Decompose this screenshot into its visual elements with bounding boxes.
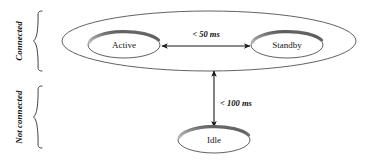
state-standby-label: Standby (272, 40, 302, 50)
diagram-canvas: Connected Not connected < 100 ms < 50 ms… (0, 0, 370, 162)
state-active-label: Active (112, 40, 136, 50)
transition-active-standby-label: < 50 ms (192, 29, 220, 39)
state-diagram: Connected Not connected < 100 ms < 50 ms… (0, 0, 370, 162)
group-annotation-not-connected: Not connected (14, 86, 42, 148)
transition-connected-idle-label: < 100 ms (220, 98, 252, 108)
state-node-standby[interactable]: Standby (251, 32, 323, 58)
state-node-active[interactable]: Active (88, 32, 160, 58)
group-label-not-connected: Not connected (14, 90, 24, 145)
transition-active-standby: < 50 ms (162, 29, 250, 46)
transition-connected-idle: < 100 ms (214, 71, 253, 127)
state-node-idle[interactable]: Idle (178, 127, 250, 153)
brace-connected (34, 11, 43, 71)
group-label-connected: Connected (14, 21, 24, 61)
group-annotation-connected: Connected (14, 11, 42, 71)
state-idle-label: Idle (207, 135, 221, 145)
brace-not-connected (34, 86, 43, 148)
